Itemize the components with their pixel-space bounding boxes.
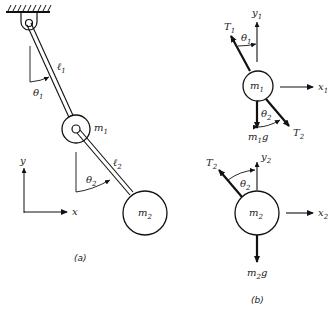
theta1-arc — [30, 77, 49, 82]
ceiling-support — [6, 5, 51, 30]
fbd-label-theta1: θ1 — [241, 32, 252, 46]
label-m1g: m1g — [248, 131, 268, 145]
label-T2-upper: T2 — [206, 157, 218, 171]
panel-b: m1 y1 T1 θ1 x1 m1g T2 θ2 m2 y2 T2 θ2 x — [206, 7, 329, 305]
label-l1: ℓ1 — [57, 61, 66, 75]
label-m1: m1 — [94, 122, 108, 136]
label-m2g: m2g — [247, 267, 267, 281]
rod-1 — [27, 23, 76, 124]
label-axis-x: x — [72, 206, 78, 217]
label-T1: T1 — [224, 21, 235, 35]
label-theta2: θ2 — [86, 174, 97, 188]
label-x2: x2 — [318, 207, 329, 221]
label-y1: y1 — [251, 7, 262, 21]
caption-b: (b) — [251, 295, 264, 305]
xy-axes: y x — [19, 155, 78, 217]
double-pendulum-figure: ℓ1 θ1 m1 ℓ2 θ2 m2 y x (a) m1 y1 T1 θ1 x1 — [0, 0, 333, 312]
label-T2-lower: T2 — [293, 127, 305, 141]
fbd-label-theta2-m2: θ2 — [240, 178, 251, 192]
fbd-label-theta2-m1: θ2 — [261, 108, 272, 122]
label-axis-y: y — [19, 155, 26, 166]
label-y2: y2 — [260, 151, 272, 165]
label-theta1: θ1 — [33, 87, 44, 101]
label-l2: ℓ2 — [113, 157, 122, 171]
mass-1 — [62, 115, 90, 143]
caption-a: (a) — [74, 253, 87, 263]
label-x1: x1 — [318, 81, 328, 95]
panel-a: ℓ1 θ1 m1 ℓ2 θ2 m2 y x (a) — [6, 5, 167, 263]
